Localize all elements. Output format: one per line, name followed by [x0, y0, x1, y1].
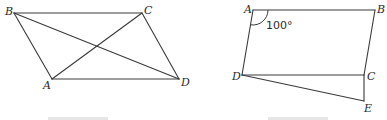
vertex-label-D: D [231, 70, 241, 83]
geometry-diagram: B C A D 100° A B D C E [0, 0, 387, 120]
figure-right-parallelogram: 100° A B D C E [231, 3, 385, 120]
vertex-label-C: C [367, 70, 376, 83]
vertex-label-B: B [4, 5, 13, 18]
vertex-label-A: A [243, 3, 252, 16]
vertex-label-E: E [363, 102, 372, 115]
edge-AB [14, 13, 52, 79]
edge-CD [142, 13, 179, 79]
vertex-label-D: D [180, 76, 190, 89]
edge-BC [364, 10, 375, 75]
angle-label-A: 100° [266, 19, 293, 32]
caption-fig-left-truncated [48, 117, 108, 120]
vertex-label-C: C [144, 4, 153, 17]
caption-fig-right-truncated [268, 117, 328, 120]
figure-left-parallelogram: B C A D [4, 4, 190, 120]
vertex-label-A: A [42, 79, 51, 92]
edge-AD [242, 10, 253, 75]
diagonal-BD [14, 13, 179, 79]
edge-DE [242, 75, 364, 101]
vertex-label-B: B [376, 3, 385, 16]
